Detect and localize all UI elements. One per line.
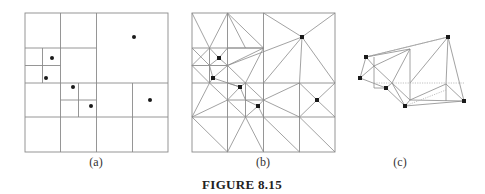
panel-c-dotted-guides bbox=[366, 37, 464, 106]
panel-a-quadtree bbox=[25, 13, 168, 152]
figure-canvas bbox=[0, 0, 485, 194]
figure-caption: FIGURE 8.15 bbox=[202, 177, 282, 193]
panel-c-triangulation bbox=[360, 37, 464, 106]
panel-b-label: (b) bbox=[256, 155, 270, 170]
panel-a-label: (a) bbox=[89, 155, 102, 170]
panel-c-label: (c) bbox=[393, 155, 406, 170]
